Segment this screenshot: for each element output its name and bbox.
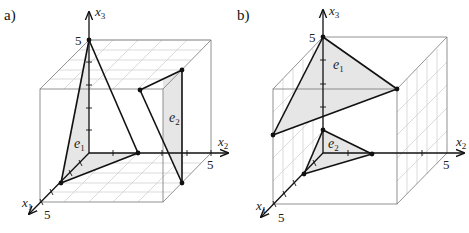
x2-tick-5: 5 bbox=[207, 157, 214, 172]
panel-a-label: a) bbox=[4, 7, 16, 24]
x2-label: x2 bbox=[217, 134, 228, 151]
diagram-canvas: a) bbox=[0, 0, 469, 233]
x1-tick-5: 5 bbox=[278, 210, 285, 225]
x1-label: x1 bbox=[255, 198, 266, 215]
panel-a: a) bbox=[4, 4, 228, 222]
x1-label: x1 bbox=[21, 195, 32, 212]
x1-tick-5: 5 bbox=[44, 207, 51, 222]
panel-b: b) bbox=[237, 3, 466, 225]
x1-axis bbox=[261, 153, 323, 217]
plane-e1-fill bbox=[61, 40, 138, 183]
x3-label: x3 bbox=[328, 3, 340, 20]
x2-tick-5: 5 bbox=[443, 157, 450, 172]
plane-e1-fill bbox=[273, 37, 397, 135]
x3-tick-5: 5 bbox=[309, 30, 316, 45]
x3-label: x3 bbox=[94, 4, 106, 21]
x3-tick-5: 5 bbox=[75, 33, 82, 48]
x2-label: x2 bbox=[455, 134, 466, 151]
panel-b-label: b) bbox=[237, 7, 250, 24]
